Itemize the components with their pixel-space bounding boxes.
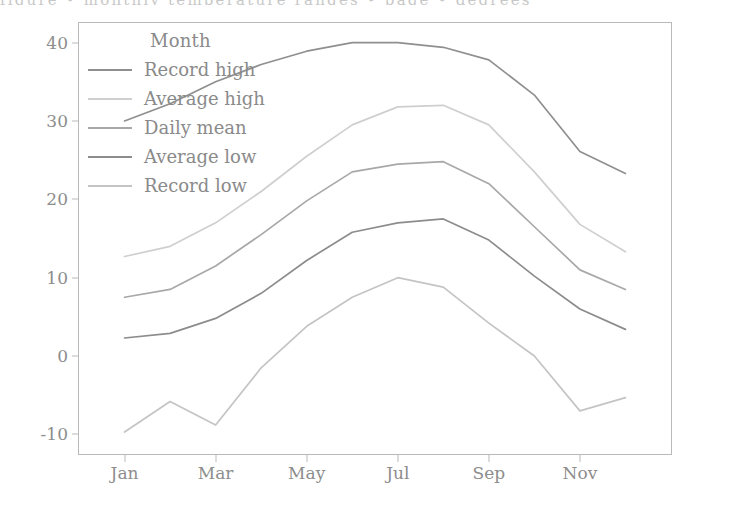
y-tick-label: -10 <box>8 424 68 444</box>
legend-entry-label: Daily mean <box>144 117 247 138</box>
series-line <box>125 219 626 338</box>
legend-title: Month <box>150 30 298 51</box>
legend-line-swatch <box>88 69 132 71</box>
legend-entry[interactable]: Daily mean <box>88 113 298 142</box>
y-tick-label: 30 <box>8 111 68 131</box>
x-tick-mark <box>124 455 125 462</box>
x-tick-mark <box>397 455 398 462</box>
x-tick-label: Mar <box>198 463 234 483</box>
x-tick-label: Jan <box>111 463 139 483</box>
x-tick-mark <box>306 455 307 462</box>
y-tick-label: 20 <box>8 189 68 209</box>
x-tick-label: Sep <box>473 463 506 483</box>
legend-line-swatch <box>88 127 132 129</box>
legend-entry-label: Record low <box>144 175 247 196</box>
x-tick-label: Nov <box>563 463 598 483</box>
legend-entry-label: Record high <box>144 59 255 80</box>
x-tick-label: Jul <box>386 463 409 483</box>
x-tick-label: May <box>288 463 325 483</box>
legend-entry-label: Average low <box>144 146 256 167</box>
legend-entries: Record highAverage highDaily meanAverage… <box>88 55 298 200</box>
x-tick-mark <box>579 455 580 462</box>
x-tick-mark <box>488 455 489 462</box>
legend-entry-label: Average high <box>144 88 265 109</box>
legend-entry[interactable]: Average high <box>88 84 298 113</box>
chart-figure: -10010203040 JanMarMayJulSepNov Month Re… <box>0 0 752 524</box>
legend-line-swatch <box>88 98 132 100</box>
legend-line-swatch <box>88 185 132 187</box>
chart-legend: Month Record highAverage highDaily meanA… <box>88 30 298 200</box>
legend-line-swatch <box>88 156 132 158</box>
series-line <box>125 278 626 432</box>
legend-entry[interactable]: Average low <box>88 142 298 171</box>
x-tick-mark <box>215 455 216 462</box>
y-tick-label: 40 <box>8 33 68 53</box>
legend-entry[interactable]: Record high <box>88 55 298 84</box>
y-tick-label: 0 <box>8 346 68 366</box>
legend-entry[interactable]: Record low <box>88 171 298 200</box>
y-tick-label: 10 <box>8 268 68 288</box>
